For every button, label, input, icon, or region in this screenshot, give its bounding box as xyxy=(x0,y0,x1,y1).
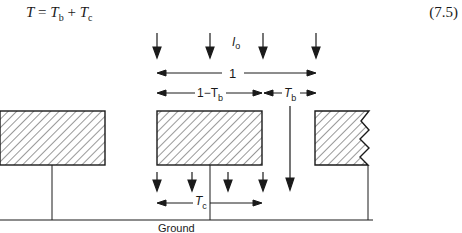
canopy-block-center xyxy=(157,111,262,165)
canopy-block-right xyxy=(315,111,369,165)
stems xyxy=(52,165,368,220)
incident-label: Io xyxy=(232,35,240,51)
ground-label: Ground xyxy=(158,222,195,233)
canopy-diagram: Io 1 1−Tb Tb xyxy=(0,0,462,233)
full-width-label: 1 xyxy=(229,66,236,81)
tb-label: Tb xyxy=(284,86,296,103)
direct-beam-arrow xyxy=(286,106,294,190)
canopy-block-left xyxy=(0,111,105,165)
full-width-dimension xyxy=(157,70,316,76)
gap-label: 1−Tb xyxy=(197,86,223,103)
tc-label: Tc xyxy=(195,194,207,211)
